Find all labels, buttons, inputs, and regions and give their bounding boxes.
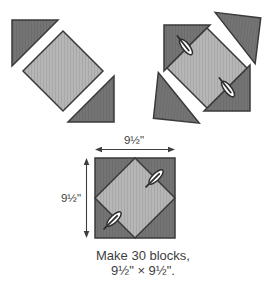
arrowhead-up-icon bbox=[84, 158, 90, 165]
diagram-canvas: 9½" 9½" Make 30 blocks, 9½" × 9½". bbox=[0, 0, 274, 283]
caption-line-1: Make 30 blocks, bbox=[96, 248, 190, 263]
caption: Make 30 blocks, 9½" × 9½". bbox=[96, 248, 190, 278]
arrowhead-down-icon bbox=[84, 231, 90, 238]
height-dimension: 9½" bbox=[61, 158, 89, 238]
arrowhead-right-icon bbox=[168, 147, 175, 153]
quilt-block-assembly-diagram: 9½" 9½" Make 30 blocks, 9½" × 9½". bbox=[0, 0, 274, 283]
arrowhead-left-icon bbox=[95, 147, 102, 153]
step1-unit bbox=[12, 20, 114, 122]
finished-block bbox=[95, 158, 175, 238]
width-dimension: 9½" bbox=[95, 134, 175, 152]
step2-unit bbox=[153, 12, 260, 123]
width-dimension-label: 9½" bbox=[124, 134, 144, 146]
caption-line-2: 9½" × 9½". bbox=[111, 263, 175, 278]
height-dimension-label: 9½" bbox=[61, 192, 81, 204]
